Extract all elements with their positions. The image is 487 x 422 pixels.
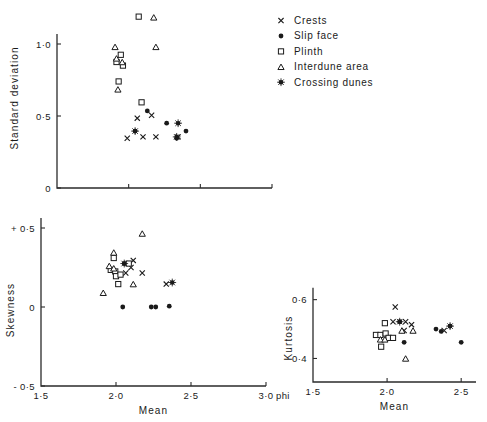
marker-open-square [379, 344, 384, 349]
series-plinth [373, 321, 395, 350]
data-point [111, 255, 116, 260]
marker-open-square [116, 281, 121, 286]
legend-label: Crests [294, 15, 327, 26]
xticklabel: 1·5 [306, 386, 321, 397]
marker-cross-x [390, 319, 395, 324]
data-point [151, 15, 157, 20]
data-point [390, 319, 395, 324]
marker-star-dot-rays [396, 318, 404, 326]
marker-star-dot-rays [131, 127, 139, 135]
xticklabel: 2·5 [454, 386, 469, 397]
axis-skewness [41, 218, 266, 386]
data-point [168, 279, 176, 287]
marker-open-triangle [403, 356, 409, 361]
xticklabel: 1·5 [34, 390, 49, 401]
data-point [116, 281, 121, 286]
open-square-icon [278, 49, 283, 54]
marker-cross-x [123, 270, 128, 275]
marker-open-triangle [278, 64, 284, 69]
data-point [153, 44, 159, 49]
marker-star-dot-rays [168, 279, 176, 287]
marker-open-triangle [153, 44, 159, 49]
marker-open-triangle [112, 44, 118, 49]
xticklabel: 2·5 [184, 390, 199, 401]
marker-open-triangle [151, 15, 157, 20]
data-point [402, 340, 407, 345]
data-point [149, 305, 154, 310]
data-point [167, 304, 172, 309]
yticklabel: - 0·5 [13, 381, 35, 392]
marker-cross-x [140, 134, 145, 139]
yticklabel: 0 [45, 183, 51, 194]
marker-open-triangle [119, 59, 125, 64]
data-point [119, 59, 125, 64]
data-point [106, 263, 112, 268]
marker-open-square [382, 321, 387, 326]
data-point [174, 119, 182, 127]
marker-open-triangle [139, 231, 145, 236]
series-crossing-dunes [396, 318, 454, 330]
marker-cross-x [140, 270, 145, 275]
marker-filled-circle [184, 129, 189, 134]
marker-open-triangle [106, 263, 112, 268]
data-point [145, 109, 150, 114]
data-point [135, 116, 140, 121]
marker-star-dot-rays [120, 260, 128, 268]
data-point [140, 270, 145, 275]
data-point [409, 322, 414, 327]
chart-skewness: 1·52·02·53·0- 0·50+ 0·5MeanSkewness [5, 218, 273, 416]
data-point [125, 136, 130, 141]
marker-filled-circle [120, 305, 125, 310]
marker-star-dot-rays [174, 119, 182, 127]
marker-cross-x [403, 319, 408, 324]
data-point [136, 14, 141, 19]
data-point [118, 52, 123, 57]
data-point [403, 319, 408, 324]
marker-open-square [118, 272, 123, 277]
marker-cross-x [164, 281, 169, 286]
legend-label: Slip face [294, 30, 339, 41]
phi-unit-label: phi [276, 390, 290, 401]
marker-cross-x [149, 113, 154, 118]
yaxis-title: Skewness [5, 283, 16, 337]
data-point [153, 134, 158, 139]
marker-open-triangle [115, 87, 121, 92]
data-point [139, 231, 145, 236]
marker-cross-x [153, 134, 158, 139]
series-slip-face [120, 261, 171, 309]
xticklabel: 2·0 [109, 390, 124, 401]
marker-filled-circle [279, 34, 284, 39]
marker-filled-circle [439, 329, 444, 334]
star-dot-icon [277, 78, 285, 86]
marker-cross-x [125, 136, 130, 141]
xticklabel: 3·0 [259, 390, 274, 401]
yticklabel: 0·4 [292, 353, 307, 364]
series-crests [125, 113, 181, 141]
marker-filled-circle [167, 304, 172, 309]
data-point [140, 134, 145, 139]
data-point [434, 327, 439, 332]
data-point [120, 260, 128, 268]
marker-filled-circle [149, 305, 154, 310]
yticklabel: 0·6 [292, 294, 307, 305]
data-point [410, 328, 416, 333]
legend: CrestsSlip facePlinthInterdune areaCross… [277, 15, 373, 88]
data-point [184, 129, 189, 134]
marker-star-dot-rays [446, 322, 454, 330]
marker-filled-circle [164, 121, 169, 126]
xaxis-title: Mean [380, 401, 409, 412]
filled-circle-icon [279, 34, 284, 39]
data-point [118, 272, 123, 277]
data-point [164, 121, 169, 126]
legend-label: Crossing dunes [294, 77, 373, 88]
open-triangle-icon [278, 64, 284, 69]
marker-open-triangle [100, 290, 106, 295]
marker-filled-circle [459, 340, 464, 345]
yaxis-title: Kurtosis [283, 316, 294, 361]
data-point [403, 356, 409, 361]
data-point [112, 44, 118, 49]
data-point [131, 127, 139, 135]
marker-cross-x [135, 116, 140, 121]
data-point [116, 79, 121, 84]
legend-label: Plinth [294, 46, 323, 57]
